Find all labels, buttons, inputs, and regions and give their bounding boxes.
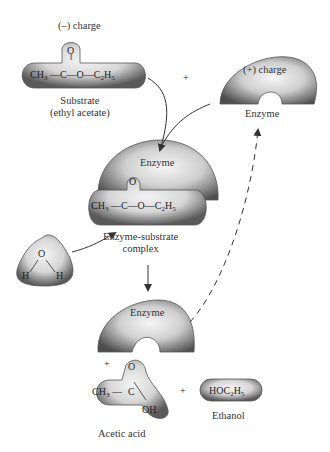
complex-formula: CH3 —C—O—C2H5: [91, 200, 176, 213]
acetic-methyl: CH3 —: [92, 386, 122, 399]
released-enzyme-label: Enzyme: [130, 307, 164, 319]
enzyme-caption: Enzyme: [245, 108, 279, 120]
substrate-charge-label: (–) charge: [58, 20, 101, 32]
ethanol-caption: Ethanol: [212, 410, 245, 422]
complex-carbonyl-oxygen: O: [129, 176, 136, 187]
acetic-carbon: C: [128, 386, 135, 397]
plus-sign: +: [183, 72, 189, 83]
complex-caption: Enzyme-substratecomplex: [103, 231, 178, 255]
substrate-caption: Substrate(ethyl acetate): [50, 95, 110, 119]
enzyme-charge-label: (+) charge: [243, 64, 286, 76]
water-oxygen: O: [38, 248, 45, 259]
water-hydrogen-right: H: [56, 270, 63, 281]
acetic-carbonyl-oxygen: O: [128, 361, 135, 372]
water-hydrogen-left: H: [22, 270, 29, 281]
plus-sign-mid: +: [180, 385, 186, 396]
acetic-acid-caption: Acetic acid: [98, 428, 146, 440]
ethanol-formula: HOC2H5: [209, 385, 244, 398]
substrate-formula: CH3 —C—O—C2H5: [30, 69, 115, 82]
arrow-substrate-to-complex: [148, 78, 167, 150]
acetic-hydroxyl: OH: [142, 404, 156, 415]
complex-enzyme-label: Enzyme: [140, 157, 174, 169]
arrow-enzyme-to-complex: [162, 104, 210, 145]
plus-sign-left: +: [104, 358, 110, 369]
double-bond: ‖: [70, 53, 72, 62]
